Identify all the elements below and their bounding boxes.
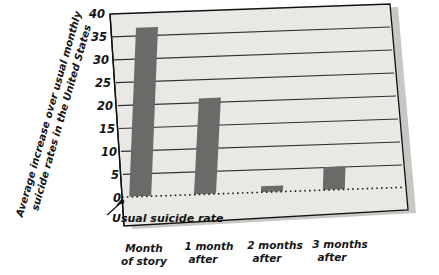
y-tick-25: 25: [95, 76, 111, 90]
y-tick-30: 30: [93, 53, 109, 67]
y-tick-10: 10: [101, 145, 117, 159]
bar-3-months-after[interactable]: [323, 166, 346, 189]
x-tick-3-months-after-line1: 3 months: [312, 238, 367, 250]
usual-suicide-rate-label: Usual suicide rate: [112, 212, 224, 225]
x-tick-2-months-after-line2: after: [253, 252, 283, 264]
chart-figure: Usual suicide rate 40 35 30 25 20 15 10 …: [0, 0, 439, 275]
y-tick-15: 15: [99, 122, 115, 136]
y-tick-40: 40: [88, 7, 105, 21]
bar-2-months-after[interactable]: [261, 185, 283, 192]
x-tick-month-of-story-line1: Month: [125, 242, 163, 254]
y-tick-20: 20: [97, 99, 113, 113]
y-axis-title-line1: Average increase over usual monthly: [14, 10, 84, 219]
x-tick-1-month-after-line1: 1 month: [184, 240, 233, 252]
bar-chart-svg: Usual suicide rate 40 35 30 25 20 15 10 …: [0, 0, 439, 275]
y-tick-0: 0: [113, 191, 121, 205]
x-tick-labels: Month of story 1 month after 2 months af…: [121, 238, 368, 267]
x-tick-3-months-after-line2: after: [318, 251, 348, 263]
x-tick-2-months-after-line1: 2 months: [247, 239, 302, 251]
y-axis-title: Average increase over usual monthly suic…: [14, 10, 96, 223]
x-tick-1-month-after-line2: after: [189, 253, 219, 265]
y-tick-35: 35: [91, 30, 107, 44]
y-tick-5: 5: [111, 168, 119, 182]
x-tick-month-of-story-line2: of story: [121, 255, 168, 267]
